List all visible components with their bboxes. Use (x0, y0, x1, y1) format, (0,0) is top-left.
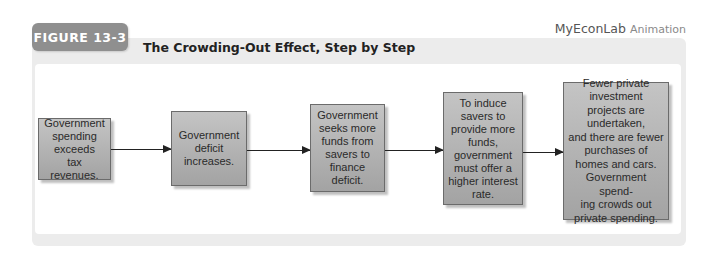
step-box-3: Government seeks more funds from savers … (310, 104, 385, 192)
brand-name: MyEconLab (555, 21, 626, 36)
arrow-icon (385, 150, 443, 151)
arrow-icon (111, 149, 171, 150)
step-box-5: Fewer private investment projects are un… (563, 82, 669, 220)
figure-badge: FIGURE 13-3 (32, 23, 128, 51)
arrow-icon (523, 152, 563, 153)
step-box-1: Government spending exceeds tax revenues… (38, 118, 111, 180)
figure-title: The Crowding-Out Effect, Step by Step (143, 40, 415, 55)
brand-label: MyEconLab Animation (555, 21, 686, 36)
step-box-4: To induce savers to provide more funds, … (443, 92, 523, 205)
brand-sub: Animation (630, 23, 686, 36)
arrow-icon (247, 150, 310, 151)
step-box-2: Government deficit increases. (171, 111, 247, 186)
